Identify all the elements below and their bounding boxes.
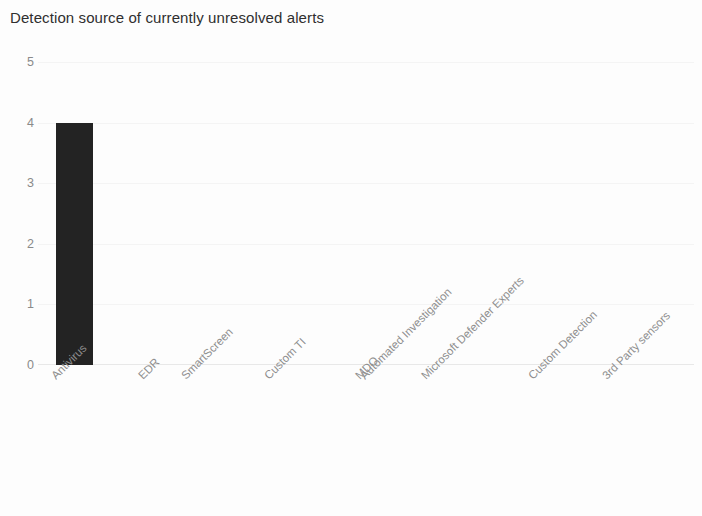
detection-source-bar-chart: Detection source of currently unresolved… [0,0,702,516]
y-tick-label: 3 [0,177,34,189]
y-tick-label: 2 [0,238,34,250]
y-axis: 012345 [0,62,34,365]
page-title: Detection source of currently unresolved… [10,8,324,28]
y-tick-label: 0 [0,359,34,371]
y-tick-label: 5 [0,56,34,68]
bar[interactable] [56,123,93,365]
y-tick-label: 4 [0,117,34,129]
y-tick-label: 1 [0,298,34,310]
x-axis: AntivirusEDRSmartScreenCustom TIMDOAutom… [38,365,702,515]
